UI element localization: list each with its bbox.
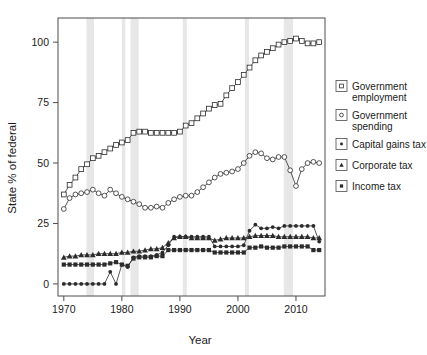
marker-filled-square xyxy=(259,244,263,248)
marker-open-circle xyxy=(218,172,223,177)
marker-open-square xyxy=(148,130,153,135)
marker-open-square xyxy=(108,146,113,151)
marker-filled-square xyxy=(311,248,315,252)
marker-open-circle xyxy=(288,168,293,173)
marker-filled-square xyxy=(236,250,240,254)
marker-filled-square xyxy=(85,262,89,266)
marker-open-square xyxy=(282,40,287,45)
marker-filled-square xyxy=(68,262,72,266)
marker-open-circle xyxy=(236,167,241,172)
marker-open-circle xyxy=(247,153,252,158)
marker-open-square xyxy=(201,111,206,116)
marker-filled-dot xyxy=(97,282,101,286)
legend-label-line2: spending xyxy=(352,121,393,132)
marker-open-square xyxy=(114,143,119,148)
marker-open-circle xyxy=(125,197,130,202)
legend-label-line2: employment xyxy=(352,92,407,103)
marker-open-circle xyxy=(183,193,188,198)
y-tick-label-25: 25 xyxy=(37,217,49,229)
y-tick-label-0: 0 xyxy=(43,278,49,290)
marker-open-circle xyxy=(154,204,159,209)
marker-open-circle xyxy=(201,185,206,190)
marker-filled-square xyxy=(178,248,182,252)
marker-filled-square xyxy=(143,255,147,259)
marker-filled-square xyxy=(305,244,309,248)
marker-filled-dot xyxy=(85,282,89,286)
marker-open-square xyxy=(166,130,171,135)
y-tick-label-75: 75 xyxy=(37,96,49,108)
marker-filled-square xyxy=(62,262,66,266)
marker-filled-square xyxy=(160,254,164,258)
marker-filled-square xyxy=(247,246,251,250)
marker-filled-square xyxy=(166,248,170,252)
marker-open-circle xyxy=(148,205,153,210)
marker-filled-dot xyxy=(253,223,257,227)
marker-open-circle xyxy=(305,161,310,166)
marker-open-square xyxy=(85,162,90,167)
marker-filled-square xyxy=(317,248,321,252)
marker-open-square xyxy=(259,53,264,58)
marker-open-circle xyxy=(340,113,344,117)
marker-filled-square xyxy=(73,262,77,266)
marker-filled-square xyxy=(189,248,193,252)
marker-open-circle xyxy=(114,191,119,196)
marker-filled-square xyxy=(120,262,124,266)
marker-open-square xyxy=(270,46,275,51)
marker-filled-square xyxy=(224,250,228,254)
y-axis-title: State % of federal xyxy=(6,122,18,213)
legend-label: Capital gains tax xyxy=(352,139,426,150)
marker-open-square xyxy=(294,36,299,41)
marker-open-square xyxy=(154,130,159,135)
marker-open-circle xyxy=(96,191,101,196)
marker-open-square xyxy=(247,65,252,70)
marker-open-square xyxy=(160,130,165,135)
marker-open-circle xyxy=(67,196,72,201)
marker-filled-dot xyxy=(213,245,217,249)
recession-band-3 xyxy=(183,18,187,296)
legend-item-income-tax[interactable]: Income tax xyxy=(336,181,401,192)
marker-filled-dot xyxy=(79,282,83,286)
marker-open-square xyxy=(340,84,344,88)
marker-open-circle xyxy=(108,187,113,192)
marker-open-circle xyxy=(317,161,322,166)
marker-open-square xyxy=(224,93,229,98)
marker-filled-dot xyxy=(265,226,269,230)
marker-filled-square xyxy=(201,248,205,252)
marker-open-circle xyxy=(143,205,148,210)
marker-filled-dot xyxy=(294,224,298,228)
marker-open-square xyxy=(172,130,177,135)
x-axis-title: Year xyxy=(188,334,211,346)
marker-open-square xyxy=(241,72,246,77)
marker-open-square xyxy=(212,103,217,108)
marker-filled-dot xyxy=(219,245,223,249)
marker-filled-dot xyxy=(340,143,343,146)
marker-open-circle xyxy=(189,193,194,198)
marker-open-square xyxy=(299,39,304,44)
marker-filled-square xyxy=(300,244,304,248)
marker-open-square xyxy=(67,182,72,187)
marker-filled-square xyxy=(172,248,176,252)
line-chart-canvas: 0255075100 19701980199020002010 State % … xyxy=(0,0,427,355)
marker-open-square xyxy=(276,42,281,47)
marker-filled-dot xyxy=(242,243,246,247)
marker-open-circle xyxy=(241,161,246,166)
marker-open-circle xyxy=(172,197,177,202)
marker-filled-dot xyxy=(91,282,95,286)
y-tick-label-100: 100 xyxy=(31,36,49,48)
marker-filled-dot xyxy=(236,245,240,249)
marker-filled-square xyxy=(218,250,222,254)
marker-open-circle xyxy=(166,201,171,206)
marker-open-circle xyxy=(270,157,275,162)
marker-filled-square xyxy=(91,262,95,266)
marker-filled-square xyxy=(271,246,275,250)
marker-filled-square xyxy=(137,255,141,259)
y-tick-label-50: 50 xyxy=(37,157,49,169)
marker-open-circle xyxy=(299,167,304,172)
marker-filled-dot xyxy=(74,282,78,286)
marker-open-circle xyxy=(85,190,90,195)
marker-filled-square xyxy=(79,262,83,266)
x-tick-label-1970: 1970 xyxy=(52,303,76,315)
marker-open-square xyxy=(236,80,241,85)
marker-filled-square xyxy=(230,250,234,254)
marker-filled-dot xyxy=(62,282,66,286)
